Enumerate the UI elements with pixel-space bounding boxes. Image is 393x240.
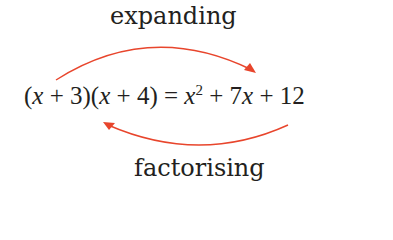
- equation: (x + 3)(x + 4) = x2 + 7x + 12: [24, 82, 305, 110]
- expanding-arrowhead-icon: [244, 63, 256, 73]
- equation-lhs: (x + 3)(x + 4): [24, 82, 158, 109]
- factorising-arrow: [108, 125, 288, 145]
- factorising-arrowhead-icon: [103, 122, 115, 130]
- expanding-arrow: [56, 47, 252, 80]
- equation-rhs: x2 + 7x + 12: [184, 82, 304, 109]
- factorising-label: factorising: [134, 154, 265, 182]
- equals-sign: =: [158, 82, 185, 109]
